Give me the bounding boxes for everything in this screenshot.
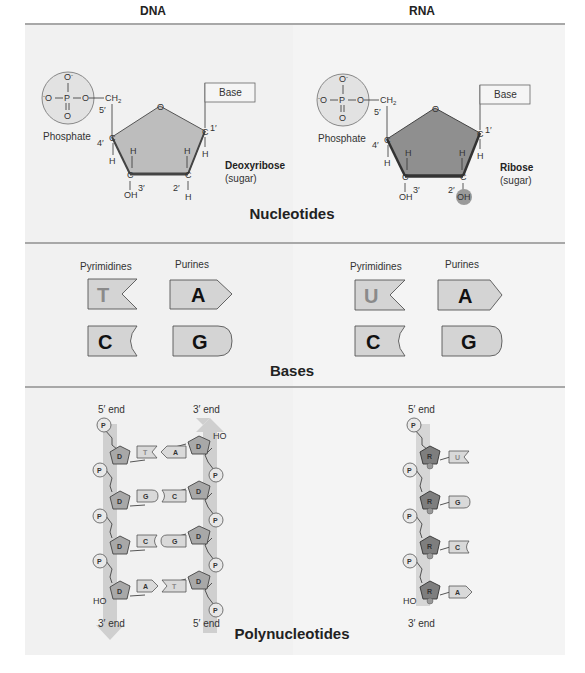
section-divider xyxy=(25,386,565,388)
rna-nucleotide: O- -O P O O CH2 5′ Phosphate O C 4′ C 1′… xyxy=(317,74,534,205)
svg-text:C: C xyxy=(185,170,192,180)
svg-text:C: C xyxy=(455,544,460,551)
svg-text:U: U xyxy=(455,454,460,461)
svg-text:1′: 1′ xyxy=(485,125,492,135)
svg-text:D: D xyxy=(196,533,201,540)
svg-text:Purines: Purines xyxy=(175,259,209,270)
svg-text:3′ end: 3′ end xyxy=(193,404,220,415)
svg-text:H: H xyxy=(202,149,209,159)
svg-text:P: P xyxy=(97,558,102,565)
svg-text:C: C xyxy=(366,331,380,353)
svg-text:C: C xyxy=(202,127,209,137)
svg-text:C: C xyxy=(172,493,177,500)
svg-text:P: P xyxy=(64,93,70,103)
section-title-nucleotides: Nucleotides xyxy=(192,205,392,222)
svg-text:T: T xyxy=(97,284,109,306)
svg-text:O: O xyxy=(357,95,364,105)
rna-single-strand: 5′ end P R P R P R P R HO U xyxy=(403,404,472,629)
svg-text:3′: 3′ xyxy=(413,185,420,195)
nucleotide-diagram: .lab { font-family: "Liberation Sans", s… xyxy=(0,0,585,673)
svg-text:2′: 2′ xyxy=(448,185,455,195)
cytosine-shape-icon xyxy=(88,326,137,356)
dna-nucleotide: O- -O P O O CH2 5′ Phosphate O C 4′ C 1′… xyxy=(42,72,285,202)
svg-text:O: O xyxy=(432,104,439,114)
svg-text:(sugar): (sugar) xyxy=(500,175,532,186)
svg-text:CH2: CH2 xyxy=(380,95,397,106)
svg-text:T: T xyxy=(172,583,177,590)
svg-text:3′: 3′ xyxy=(138,183,145,193)
svg-text:HO: HO xyxy=(93,596,107,606)
svg-text:H: H xyxy=(130,146,137,156)
svg-text:O: O xyxy=(64,111,71,121)
svg-text:H: H xyxy=(477,151,484,161)
svg-text:Phosphate: Phosphate xyxy=(318,133,366,144)
svg-text:G: G xyxy=(192,331,208,353)
svg-text:5′ end: 5′ end xyxy=(98,404,125,415)
section-divider xyxy=(25,242,565,244)
svg-text:Phosphate: Phosphate xyxy=(43,131,91,142)
svg-text:3′ end: 3′ end xyxy=(408,618,435,629)
bases-section: Pyrimidines Purines T A C G Pyrimidines … xyxy=(80,259,502,356)
svg-text:P: P xyxy=(407,467,412,474)
svg-text:O: O xyxy=(157,102,164,112)
svg-text:OH: OH xyxy=(457,192,471,202)
svg-text:OH: OH xyxy=(399,192,413,202)
svg-text:Base: Base xyxy=(494,89,517,100)
svg-text:P: P xyxy=(213,607,218,614)
svg-text:C: C xyxy=(143,538,148,545)
svg-text:OH: OH xyxy=(124,190,138,200)
svg-text:C: C xyxy=(460,172,467,182)
svg-text:4′: 4′ xyxy=(372,140,379,150)
svg-text:O: O xyxy=(339,113,346,123)
svg-text:P: P xyxy=(411,422,416,429)
svg-text:Purines: Purines xyxy=(445,259,479,270)
svg-text:3′ end: 3′ end xyxy=(98,618,125,629)
svg-text:P: P xyxy=(213,517,218,524)
svg-text:4′: 4′ xyxy=(97,138,104,148)
svg-text:P: P xyxy=(213,472,218,479)
section-title-bases: Bases xyxy=(192,362,392,379)
svg-text:Ribose: Ribose xyxy=(500,162,534,173)
svg-text:C: C xyxy=(477,129,484,139)
thymine-shape-icon xyxy=(88,279,137,309)
svg-text:Pyrimidines: Pyrimidines xyxy=(80,261,132,272)
svg-text:(sugar): (sugar) xyxy=(225,173,257,184)
svg-text:-O: -O xyxy=(318,95,327,105)
svg-text:H: H xyxy=(184,146,191,156)
svg-text:G: G xyxy=(461,331,477,353)
svg-text:R: R xyxy=(427,543,432,550)
svg-text:R: R xyxy=(427,498,432,505)
svg-text:A: A xyxy=(143,583,148,590)
svg-text:5′: 5′ xyxy=(99,105,106,115)
svg-text:5′ end: 5′ end xyxy=(408,404,435,415)
svg-text:H: H xyxy=(109,156,116,166)
svg-text:P: P xyxy=(97,513,102,520)
svg-text:A: A xyxy=(173,449,178,456)
svg-text:C: C xyxy=(109,133,116,143)
svg-text:C: C xyxy=(98,331,112,353)
svg-text:P: P xyxy=(407,558,412,565)
svg-text:D: D xyxy=(117,453,122,460)
svg-text:P: P xyxy=(101,422,106,429)
svg-text:T: T xyxy=(143,449,148,456)
svg-text:A: A xyxy=(455,589,460,596)
svg-text:C: C xyxy=(402,172,409,182)
svg-text:G: G xyxy=(455,499,461,506)
svg-text:C: C xyxy=(127,170,134,180)
svg-text:R: R xyxy=(427,588,432,595)
svg-text:O: O xyxy=(82,93,89,103)
svg-text:HO: HO xyxy=(213,431,227,441)
svg-text:D: D xyxy=(196,578,201,585)
svg-text:Base: Base xyxy=(219,87,242,98)
svg-text:C: C xyxy=(384,135,391,145)
svg-text:G: G xyxy=(143,493,149,500)
svg-text:R: R xyxy=(427,453,432,460)
dna-double-helix: 5′ end 3′ end P D P D P D P D HO xyxy=(93,404,227,640)
svg-text:P: P xyxy=(97,467,102,474)
svg-text:CH2: CH2 xyxy=(105,93,122,104)
svg-text:1′: 1′ xyxy=(210,123,217,133)
svg-text:A: A xyxy=(458,285,472,307)
svg-text:5′: 5′ xyxy=(374,107,381,117)
svg-text:HO: HO xyxy=(403,596,417,606)
svg-text:G: G xyxy=(172,538,178,545)
